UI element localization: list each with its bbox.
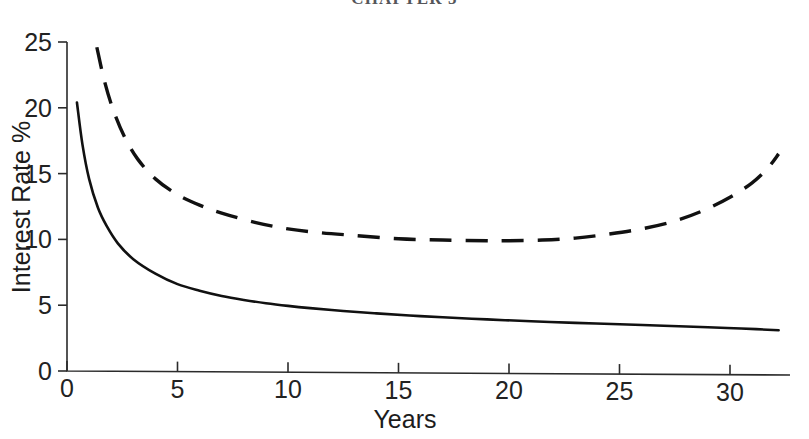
chart-canvas: 0510152025 051015202530 Years Interest R… <box>0 0 809 439</box>
y-tick-label: 5 <box>38 291 52 319</box>
x-tick-label: 20 <box>495 376 523 404</box>
series-solid-curve <box>77 103 779 331</box>
x-tick-label: 0 <box>60 374 74 402</box>
series-dashed-curve <box>97 47 779 241</box>
x-axis-tick-labels: 051015202530 <box>60 374 744 406</box>
y-tick-label: 20 <box>24 94 52 122</box>
x-tick-label: 5 <box>171 375 185 403</box>
x-tick-label: 15 <box>385 376 413 404</box>
y-tick-label: 0 <box>38 357 52 385</box>
x-axis-title: Years <box>373 405 436 433</box>
y-axis-title: Interest Rate % <box>7 121 35 293</box>
interest-rate-chart: 0510152025 051015202530 Years Interest R… <box>0 0 809 439</box>
figure-page: CHAPTER 5 0510152025 051015202530 Years … <box>0 0 809 439</box>
x-tick-label: 25 <box>606 377 634 405</box>
y-tick-label: 25 <box>24 28 52 56</box>
chart-axes <box>67 42 790 375</box>
axis-lines <box>67 42 790 375</box>
chart-series-group <box>77 47 779 330</box>
x-tick-label: 30 <box>716 378 744 406</box>
x-tick-label: 10 <box>274 375 302 403</box>
